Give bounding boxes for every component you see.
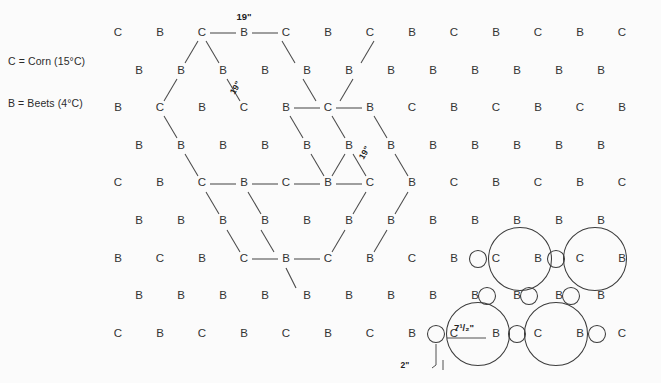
grid-cell-corn: C bbox=[114, 26, 122, 38]
grid-cell-corn: C bbox=[618, 176, 626, 188]
grid-cell-beets: B bbox=[450, 252, 458, 264]
grid-cell-beets: B bbox=[492, 26, 500, 38]
grid-cell-beets: B bbox=[219, 214, 227, 226]
grid-cell-beets: B bbox=[261, 139, 269, 151]
grid-cell-beets: B bbox=[597, 64, 605, 76]
grid-cell-beets: B bbox=[597, 289, 605, 301]
grid-cell-corn: C bbox=[198, 176, 206, 188]
grid-cell-beets: B bbox=[177, 64, 185, 76]
grid-cell-beets: B bbox=[156, 327, 164, 339]
grid-cell-beets: B bbox=[534, 252, 542, 264]
grid-cell-corn: C bbox=[114, 176, 122, 188]
grid-cell-beets: B bbox=[219, 289, 227, 301]
grid-cell-corn: C bbox=[198, 327, 206, 339]
grid-cell-beets: B bbox=[387, 139, 395, 151]
grid-cell-beets: B bbox=[240, 26, 248, 38]
grid-cell-beets: B bbox=[513, 214, 521, 226]
grid-cell-corn: C bbox=[282, 26, 290, 38]
grid-cell-corn: C bbox=[492, 252, 500, 264]
beet-circle bbox=[589, 326, 606, 343]
grid-cell-beets: B bbox=[618, 101, 626, 113]
grid-cell-beets: B bbox=[555, 64, 563, 76]
grid-cell-beets: B bbox=[471, 214, 479, 226]
grid-cell-corn: C bbox=[240, 252, 248, 264]
beet-circle bbox=[563, 288, 580, 305]
dim-two-inch: 2" bbox=[401, 360, 410, 370]
grid-cell-beets: B bbox=[198, 252, 206, 264]
grid-cell-corn: C bbox=[534, 176, 542, 188]
grid-cell-beets: B bbox=[555, 139, 563, 151]
grid-cell-beets: B bbox=[534, 101, 542, 113]
grid-cell-beets: B bbox=[177, 139, 185, 151]
grid-cell-corn: C bbox=[156, 101, 164, 113]
grid-cell-beets: B bbox=[513, 64, 521, 76]
dim-seven-half: 7¹/₂" bbox=[454, 322, 474, 333]
grid-cell-beets: B bbox=[471, 289, 479, 301]
grid-cell-beets: B bbox=[345, 64, 353, 76]
grid-cell-beets: B bbox=[156, 26, 164, 38]
grid-cell-beets: B bbox=[282, 101, 290, 113]
grid-cell-beets: B bbox=[240, 176, 248, 188]
grid-cell-beets: B bbox=[366, 252, 374, 264]
grid-cell-beets: B bbox=[576, 176, 584, 188]
grid-cell-corn: C bbox=[198, 26, 206, 38]
dim-19-left-diagonal: 19" bbox=[228, 79, 243, 96]
beet-circle bbox=[479, 288, 496, 305]
grid-cell-corn: C bbox=[240, 101, 248, 113]
grid-cell-corn: C bbox=[282, 176, 290, 188]
grid-cell-beets: B bbox=[135, 289, 143, 301]
grid-cell-corn: C bbox=[534, 26, 542, 38]
grid-cell-corn: C bbox=[366, 176, 374, 188]
grid-cell-beets: B bbox=[345, 139, 353, 151]
grid-cell-beets: B bbox=[492, 327, 500, 339]
grid-cell-beets: B bbox=[177, 289, 185, 301]
grid-cell-beets: B bbox=[408, 176, 416, 188]
beet-circle bbox=[521, 288, 538, 305]
grid-cell-beets: B bbox=[198, 101, 206, 113]
grid-cell-beets: B bbox=[471, 64, 479, 76]
grid-cell-beets: B bbox=[576, 327, 584, 339]
grid-cell-beets: B bbox=[135, 64, 143, 76]
grid-cell-beets: B bbox=[303, 139, 311, 151]
grid-cell-beets: B bbox=[597, 214, 605, 226]
grid-cell-corn: C bbox=[408, 101, 416, 113]
hexagon-lower-lines bbox=[206, 192, 366, 288]
grid-cell-corn: C bbox=[324, 252, 332, 264]
grid-cell-corn: C bbox=[450, 176, 458, 188]
grid-cell-beets: B bbox=[303, 64, 311, 76]
grid-cell-beets: B bbox=[492, 176, 500, 188]
dim-19-top: 19" bbox=[236, 11, 251, 22]
grid-cell-beets: B bbox=[114, 101, 122, 113]
grid-cell-beets: B bbox=[324, 327, 332, 339]
dim-19-right-diagonal: 19" bbox=[357, 144, 372, 161]
grid-cell-beets: B bbox=[429, 139, 437, 151]
grid-cell-beets: B bbox=[240, 327, 248, 339]
grid-cell-beets: B bbox=[576, 26, 584, 38]
grid-cell-corn: C bbox=[534, 327, 542, 339]
grid-cell-corn: C bbox=[282, 327, 290, 339]
grid-cell-corn: C bbox=[366, 327, 374, 339]
grid-cell-beets: B bbox=[345, 214, 353, 226]
beet-circle bbox=[509, 326, 526, 343]
grid-cell-beets: B bbox=[471, 139, 479, 151]
grid-cell-beets: B bbox=[114, 252, 122, 264]
grid-cell-beets: B bbox=[324, 26, 332, 38]
grid-cell-corn: C bbox=[576, 101, 584, 113]
grid-cell-beets: B bbox=[513, 139, 521, 151]
beet-circle bbox=[470, 251, 487, 268]
grid-cell-corn: C bbox=[618, 26, 626, 38]
grid-cell-corn: C bbox=[408, 252, 416, 264]
grid-cell-corn: C bbox=[156, 252, 164, 264]
grid-cell-beets: B bbox=[219, 139, 227, 151]
grid-cell-corn: C bbox=[366, 26, 374, 38]
hexagon-left-lines bbox=[164, 33, 278, 184]
corn-circle bbox=[564, 228, 627, 291]
grid-cell-beets: B bbox=[618, 252, 626, 264]
dim-two-inch-group: 2" bbox=[401, 344, 443, 370]
grid-cell-beets: B bbox=[429, 64, 437, 76]
grid-cell-beets: B bbox=[156, 176, 164, 188]
grid-cell-beets: B bbox=[408, 327, 416, 339]
grid-cell-beets: B bbox=[303, 289, 311, 301]
grid-cell-beets: B bbox=[261, 214, 269, 226]
grid-cell-beets: B bbox=[303, 214, 311, 226]
